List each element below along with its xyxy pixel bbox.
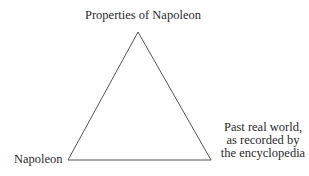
edge-top-to-right: [138, 32, 211, 160]
node-label-bottom-right-line-3: the encyclopedia: [218, 147, 308, 160]
node-label-bottom-left: Napoleon: [14, 153, 63, 166]
edge-top-to-left: [68, 32, 138, 160]
node-label-bottom-right: Past real world, as recorded by the ency…: [218, 121, 308, 160]
node-label-top: Properties of Napoleon: [85, 9, 201, 22]
